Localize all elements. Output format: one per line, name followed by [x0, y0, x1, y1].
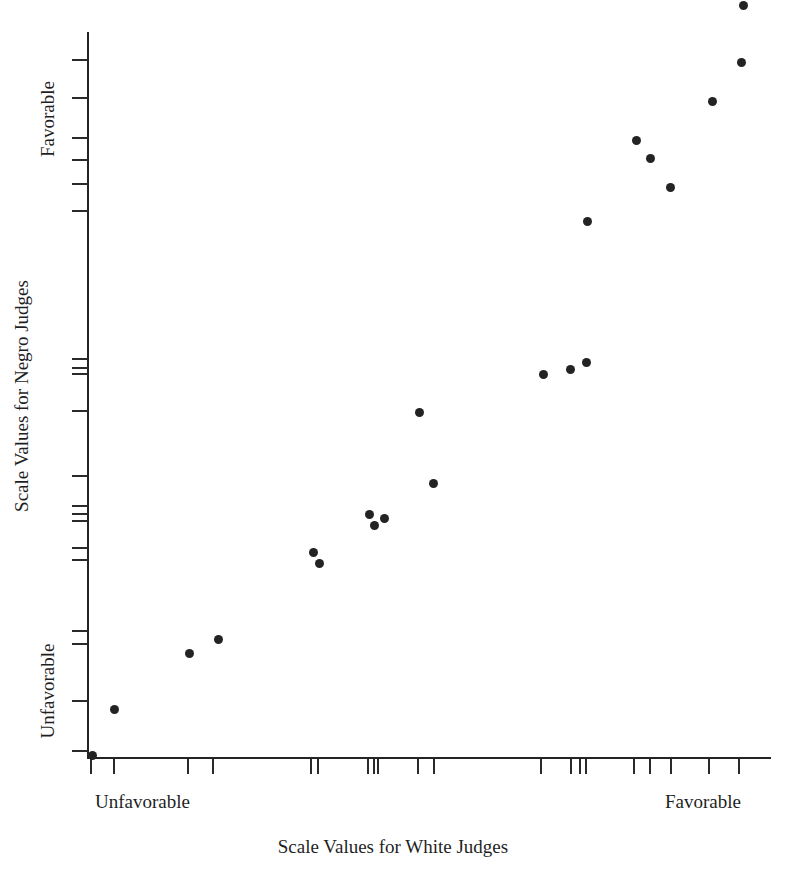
x-axis-tick [670, 759, 672, 774]
y-axis-tick [72, 700, 88, 702]
x-axis-tick [579, 759, 581, 774]
x-axis-title: Scale Values for White Judges [0, 836, 786, 858]
data-point [309, 548, 318, 557]
x-axis-tick [708, 759, 710, 774]
x-axis-tick [377, 759, 379, 774]
data-point [583, 217, 592, 226]
y-axis-tick [72, 505, 88, 507]
data-point [708, 97, 717, 106]
x-axis-label-unfavorable: Unfavorable [95, 791, 190, 813]
x-axis-tick [317, 759, 319, 774]
x-axis-tick [212, 759, 214, 774]
y-axis-label-favorable: Favorable [37, 53, 59, 185]
x-axis-tick [738, 759, 740, 774]
y-axis-tick [72, 97, 88, 99]
x-axis-tick [570, 759, 572, 774]
data-point [566, 365, 575, 374]
y-axis-tick [72, 410, 88, 412]
x-axis-tick [187, 759, 189, 774]
x-axis-tick [90, 759, 92, 774]
y-axis-tick [72, 183, 88, 185]
data-point [185, 649, 194, 658]
data-point [315, 559, 324, 568]
y-axis-tick [72, 750, 88, 752]
data-point [415, 408, 424, 417]
data-point [370, 521, 379, 530]
data-point [110, 705, 119, 714]
data-point [582, 358, 591, 367]
data-point [88, 751, 97, 760]
x-axis-label-favorable: Favorable [665, 791, 741, 813]
y-axis-tick [72, 559, 88, 561]
y-axis-tick [72, 59, 88, 61]
y-axis-tick [72, 547, 88, 549]
y-axis-tick [72, 373, 88, 375]
y-axis-title: Scale Values for Negro Judges [11, 246, 33, 546]
data-point [380, 514, 389, 523]
x-axis-tick [585, 759, 587, 774]
scatter-plot-figure: Favorable Unfavorable Scale Values for N… [0, 0, 786, 873]
data-point [739, 1, 748, 10]
data-point [214, 635, 223, 644]
x-axis-tick [373, 759, 375, 774]
data-point [737, 58, 746, 67]
y-axis-tick [72, 367, 88, 369]
data-point [429, 479, 438, 488]
y-axis-tick [72, 513, 88, 515]
x-axis-tick [310, 759, 312, 774]
y-axis-tick [72, 520, 88, 522]
y-axis-tick [72, 630, 88, 632]
y-axis-tick [72, 475, 88, 477]
x-axis-tick [649, 759, 651, 774]
x-axis-tick [367, 759, 369, 774]
x-axis-line [87, 757, 771, 759]
data-point [666, 183, 675, 192]
y-axis-tick [72, 643, 88, 645]
y-axis-tick [72, 159, 88, 161]
y-axis-label-unfavorable: Unfavorable [37, 613, 59, 769]
data-point [646, 154, 655, 163]
x-axis-tick [113, 759, 115, 774]
y-axis-tick [72, 137, 88, 139]
x-axis-tick [433, 759, 435, 774]
x-axis-tick [540, 759, 542, 774]
y-axis-tick [72, 210, 88, 212]
y-axis-line [87, 32, 89, 759]
x-axis-tick [417, 759, 419, 774]
x-axis-tick [633, 759, 635, 774]
y-axis-tick [72, 358, 88, 360]
data-point [632, 136, 641, 145]
data-point [539, 370, 548, 379]
data-point [365, 510, 374, 519]
